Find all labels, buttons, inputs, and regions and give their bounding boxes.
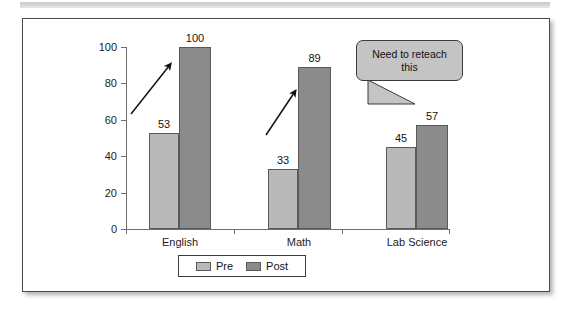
bar-label-math-post: 89 [298, 53, 331, 64]
category-label-math: Math [259, 237, 339, 248]
y-tick-label-40: 40 [77, 151, 117, 162]
chart-legend: Pre Post [178, 255, 306, 277]
bar-label-lab-science-post: 57 [416, 111, 448, 122]
y-tick-40 [121, 156, 126, 157]
growth-arrow-math [266, 93, 294, 135]
legend-label-pre: Pre [216, 261, 233, 272]
callout-text: Need to reteach this [367, 48, 452, 72]
legend-item-post[interactable]: Post [246, 261, 288, 272]
y-tick-60 [121, 120, 126, 121]
growth-arrow-english [131, 66, 169, 114]
category-label-lab-science: Lab Science [377, 237, 457, 248]
y-tick-label-0: 0 [77, 224, 117, 235]
y-tick-100 [121, 47, 126, 48]
chart-plot-area: 100 80 60 40 20 0 53 100 33 89 45 [23, 19, 551, 293]
bar-english-post[interactable] [179, 47, 211, 229]
y-tick-label-60: 60 [77, 115, 117, 126]
legend-swatch-pre-icon [196, 262, 211, 271]
bar-label-english-pre: 53 [149, 119, 179, 130]
x-tick-2 [342, 229, 343, 234]
category-label-english: English [140, 237, 220, 248]
bar-math-post[interactable] [298, 67, 331, 229]
callout-box: Need to reteach this [356, 40, 463, 81]
y-tick-label-20: 20 [77, 188, 117, 199]
x-tick-1 [234, 229, 235, 234]
y-tick-80 [121, 83, 126, 84]
callout-text-line1: Need to reteach [372, 48, 447, 60]
bar-lab-science-pre[interactable] [386, 147, 416, 229]
callout-tail [368, 80, 415, 104]
chart-figure-frame: 100 80 60 40 20 0 53 100 33 89 45 [22, 18, 550, 292]
callout-text-line2: this [401, 61, 417, 73]
bar-lab-science-post[interactable] [416, 125, 448, 229]
page-top-rule [20, 2, 550, 8]
x-tick-start [126, 229, 127, 234]
callout-bubble[interactable]: Need to reteach this [356, 40, 463, 81]
bar-label-english-post: 100 [179, 33, 211, 44]
y-axis-line [126, 47, 127, 229]
bar-math-pre[interactable] [268, 169, 298, 229]
bar-label-lab-science-pre: 45 [386, 133, 416, 144]
bar-english-pre[interactable] [149, 133, 179, 230]
x-axis-line [126, 229, 449, 230]
legend-item-pre[interactable]: Pre [196, 261, 233, 272]
legend-label-post: Post [266, 261, 288, 272]
y-tick-label-80: 80 [77, 78, 117, 89]
y-tick-20 [121, 193, 126, 194]
legend-swatch-post-icon [246, 262, 261, 271]
bar-label-math-pre: 33 [268, 155, 298, 166]
x-tick-end [449, 229, 450, 234]
page-root: 100 80 60 40 20 0 53 100 33 89 45 [0, 0, 572, 314]
y-tick-label-100: 100 [77, 42, 117, 53]
